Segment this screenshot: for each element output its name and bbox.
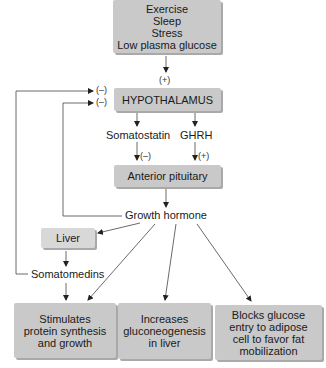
effect-box-blocks-glucose-entry: Blocks glucose entry to adipose cell to … (215, 305, 322, 360)
stimulus-stress: Stress (117, 27, 217, 39)
growth-hormone-label: Growth hormone (125, 209, 207, 221)
sign-ghrh-positive: (+) (198, 151, 209, 161)
sign-feedback-inner-negative: (–) (96, 97, 107, 107)
effect-line: Increases (123, 313, 206, 325)
effect-box-protein-synthesis: Stimulates protein synthesis and growth (14, 303, 116, 358)
somatostatin-label: Somatostatin (106, 129, 170, 141)
effect-line: gluconeogenesis (123, 325, 206, 337)
feedback-growth-hormone-arrow (63, 103, 122, 216)
effect-line: in liver (123, 337, 206, 349)
stimulus-sleep: Sleep (117, 15, 217, 27)
effect-line: Stimulates (24, 313, 107, 325)
stimulus-exercise: Exercise (117, 3, 217, 15)
effect-line: and growth (24, 337, 107, 349)
sign-feedback-outer-negative: (–) (96, 85, 107, 95)
liver-label: Liver (56, 232, 80, 244)
effect-line: mobilization (229, 345, 307, 357)
effect-box-gluconeogenesis: Increases gluconeogenesis in liver (118, 303, 211, 359)
sign-stimuli-positive: (+) (159, 75, 170, 85)
effect-line: cell to favor fat (229, 333, 307, 345)
effect-line: entry to adipose (229, 321, 307, 333)
anterior-pituitary-label: Anterior pituitary (127, 170, 207, 182)
anterior-pituitary-box: Anterior pituitary (114, 165, 221, 187)
stimuli-box: Exercise Sleep Stress Low plasma glucose (113, 0, 221, 53)
sign-somatostatin-negative: (–) (140, 151, 151, 161)
somatomedins-label: Somatomedins (31, 268, 104, 280)
hypothalamus-box: HYPOTHALAMUS (114, 88, 221, 111)
ghrh-label: GHRH (180, 129, 212, 141)
liver-box: Liver (41, 228, 95, 248)
effect-line: Blocks glucose (229, 309, 307, 321)
hypothalamus-label: HYPOTHALAMUS (122, 94, 213, 106)
stimulus-low-plasma-glucose: Low plasma glucose (117, 39, 217, 51)
effect-line: protein synthesis (24, 325, 107, 337)
